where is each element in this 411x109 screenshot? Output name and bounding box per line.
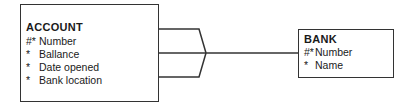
attribute-label: Ballance <box>39 48 79 60</box>
attribute-row: #*Number <box>304 46 352 58</box>
attribute-row: #*Number <box>26 35 76 47</box>
entity-title: BANK <box>304 33 337 45</box>
crows-foot-top-prong <box>159 29 206 53</box>
attribute-marker: #* <box>26 35 39 47</box>
attribute-marker: * <box>26 74 39 86</box>
attribute-label: Number <box>315 46 352 58</box>
entity-title: ACCOUNT <box>26 21 83 33</box>
attribute-label: Bank location <box>39 74 102 86</box>
attribute-row: *Name <box>304 59 343 71</box>
attribute-label: Name <box>315 59 343 71</box>
attribute-row: *Date opened <box>26 61 99 73</box>
crows-foot-bottom-prong <box>159 53 206 77</box>
attribute-marker: * <box>26 61 39 73</box>
attribute-marker: * <box>304 59 315 71</box>
attribute-marker: #* <box>304 46 315 58</box>
entity-bank[interactable]: BANK #*Number *Name <box>298 29 394 78</box>
attribute-marker: * <box>26 48 39 60</box>
attribute-row: *Ballance <box>26 48 79 60</box>
attribute-label: Date opened <box>39 61 99 73</box>
attribute-row: *Bank location <box>26 74 102 86</box>
attribute-label: Number <box>39 35 76 47</box>
entity-account[interactable]: ACCOUNT #*Number *Ballance *Date opened … <box>20 4 159 102</box>
